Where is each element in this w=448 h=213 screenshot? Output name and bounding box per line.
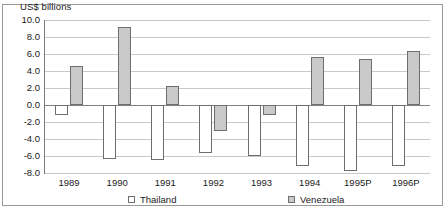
chart-legend: ThailandVenezuela [0,194,448,208]
gridline [45,88,430,89]
gridline [45,71,430,72]
x-axis-label-1990: 1990 [93,177,141,188]
bar-venezuela-1995P [359,59,372,105]
bar-thailand-1991 [151,105,164,160]
gridline [45,54,430,55]
x-axis-label-1995P: 1995P [334,177,382,188]
bar-thailand-1995P [344,105,357,171]
x-axis-label-1992: 1992 [189,177,237,188]
bar-thailand-1990 [103,105,116,159]
x-axis-label-1991: 1991 [141,177,189,188]
bar-venezuela-1992 [214,105,227,131]
y-axis-tick-label: -6.0 [0,150,40,161]
legend-item-thailand[interactable]: Thailand [128,194,176,205]
y-axis-tick-label: 4.0 [0,65,40,76]
y-axis-tick-label: 0.0 [0,99,40,110]
bar-thailand-1994 [296,105,309,166]
bar-thailand-1993 [248,105,261,156]
x-axis-label-1989: 1989 [45,177,93,188]
gridline [45,37,430,38]
bar-venezuela-1990 [118,27,131,105]
y-axis-tick-label: 2.0 [0,82,40,93]
y-axis-tick-label: -2.0 [0,116,40,127]
y-axis-tick-label: 10.0 [0,14,40,25]
x-axis-label-1993: 1993 [238,177,286,188]
bar-venezuela-1996P [407,51,420,105]
bar-thailand-1989 [55,105,68,115]
bar-venezuela-1994 [311,57,324,105]
bar-thailand-1992 [199,105,212,153]
y-axis-tick-label: 8.0 [0,31,40,42]
y-axis-title: US$ billions [20,1,71,12]
y-axis-tick-label: -8.0 [0,167,40,178]
legend-label: Venezuela [300,194,344,205]
bar-thailand-1996P [392,105,405,166]
legend-label: Thailand [140,194,176,205]
bar-venezuela-1993 [263,105,276,115]
y-axis-tick-label: -4.0 [0,133,40,144]
legend-item-venezuela[interactable]: Venezuela [288,194,344,205]
legend-swatch-venezuela [288,196,295,203]
plot-area [45,20,430,173]
bar-venezuela-1991 [166,86,179,105]
chart-figure: US$ billions 10.08.06.04.02.00.0-2.0-4.0… [0,0,448,213]
x-axis-label-1996P: 1996P [382,177,430,188]
legend-swatch-thailand [128,196,135,203]
x-axis-label-1994: 1994 [286,177,334,188]
gridline [45,173,430,174]
y-axis-tick-label: 6.0 [0,48,40,59]
gridline [45,20,430,21]
bar-venezuela-1989 [70,66,83,105]
